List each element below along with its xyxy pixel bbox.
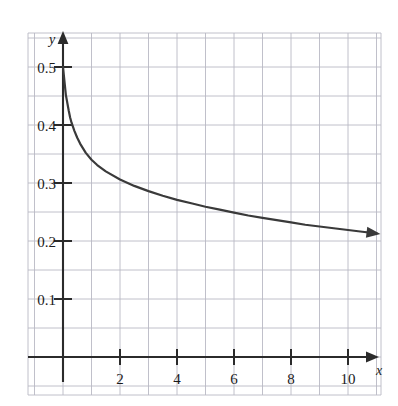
x-tick-label-4: 4	[173, 371, 181, 387]
y-tick-label-0.5: 0.5	[37, 60, 56, 76]
y-tick-labels: 0.5 0.4 0.3 0.2 0.1	[37, 60, 56, 308]
x-axis-arrowhead	[366, 352, 379, 363]
y-tick-label-0.4: 0.4	[37, 118, 56, 134]
curve-decaying-line	[63, 67, 377, 233]
y-tick-label-0.2: 0.2	[37, 234, 56, 250]
y-tick-label-0.1: 0.1	[37, 292, 56, 308]
grid-lines	[28, 33, 381, 395]
x-tick-label-8: 8	[287, 371, 295, 387]
plot-canvas: 0.5 0.4 0.3 0.2 0.1 2 4 6 8 10 y x	[0, 0, 398, 406]
x-tick-label-10: 10	[341, 371, 356, 387]
curve-arrowhead	[366, 227, 381, 238]
x-tick-label-6: 6	[230, 371, 238, 387]
x-tick-label-2: 2	[116, 371, 124, 387]
y-tick-label-0.3: 0.3	[37, 176, 56, 192]
tick-marks	[54, 67, 348, 365]
chart-figure: 0.5 0.4 0.3 0.2 0.1 2 4 6 8 10 y x	[0, 0, 398, 406]
x-axis-label: x	[375, 363, 383, 378]
y-axis-label: y	[47, 32, 56, 47]
